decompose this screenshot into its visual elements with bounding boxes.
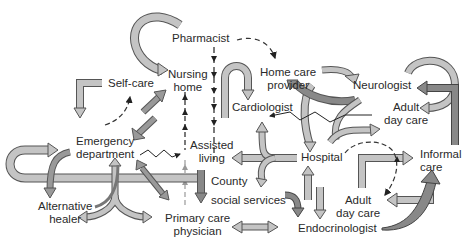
- self-care-arrow: [74, 83, 102, 118]
- care-network-diagram: Pharmacist Nursing home Self-care Home c…: [0, 0, 472, 246]
- adult-day-care-top-label-line2: day care: [384, 114, 428, 127]
- node-alternative-healer: Alternative healer: [38, 200, 92, 226]
- node-endocrinologist: Endocrinologist: [298, 222, 377, 235]
- alternative-healer-label-line1: Alternative: [38, 200, 92, 213]
- adult-day-care-bottom-label-line1: Adult: [336, 194, 380, 207]
- adult-day-care-dashed-cycle: [345, 142, 400, 195]
- node-emergency-department: Emergency department: [76, 135, 134, 161]
- cardiologist-label: Cardiologist: [232, 101, 293, 114]
- node-county-social-services: County social services: [211, 172, 286, 210]
- node-adult-day-care-bottom: Adult day care: [336, 194, 380, 220]
- node-cardiologist: Cardiologist: [232, 101, 293, 114]
- node-nursing-home: Nursing home: [168, 68, 208, 94]
- node-self-care: Self-care: [108, 77, 154, 90]
- neurologist-label: Neurologist: [353, 79, 411, 92]
- informal-care-label-line1: Informal: [420, 148, 462, 161]
- self-care-label: Self-care: [108, 77, 154, 90]
- node-pharmacist: Pharmacist: [172, 32, 230, 45]
- county-social-services-label-line1: County: [211, 172, 286, 191]
- emergency-department-label-line2: department: [76, 148, 134, 161]
- pcp-endocrinologist-double-arrow: [232, 221, 278, 233]
- adult-day-care-to-informal-arrow: [362, 151, 413, 188]
- informal-care-label-line2: care: [420, 161, 462, 174]
- node-hospital: Hospital: [301, 151, 343, 164]
- node-primary-care-physician: Primary care physician: [165, 212, 230, 238]
- node-adult-day-care-top: Adult day care: [384, 101, 428, 127]
- alternative-healer-label-line2: healer: [38, 213, 92, 226]
- emergency-department-label-line1: Emergency: [76, 135, 134, 148]
- node-assisted-living: Assisted living: [190, 139, 233, 165]
- ed-to-assisted-living-zigzag: [140, 150, 180, 157]
- ed-nursing-home-arrows: [132, 90, 166, 140]
- primary-care-physician-label-line2: physician: [165, 225, 230, 238]
- home-care-provider-label-line2: provider: [260, 79, 316, 92]
- node-informal-care: Informal care: [420, 148, 462, 174]
- county-social-services-label-line2: social services: [211, 191, 286, 210]
- hospital-endocrinologist-arrows: [302, 166, 326, 219]
- assisted-living-label-line1: Assisted: [190, 139, 233, 152]
- county-to-endocrinologist-arrow: [285, 195, 304, 217]
- node-home-care-provider: Home care provider: [260, 66, 316, 92]
- assisted-living-label-line2: living: [190, 152, 233, 165]
- node-neurologist: Neurologist: [353, 79, 411, 92]
- adult-day-care-bottom-label-line2: day care: [336, 207, 380, 220]
- nursing-home-label-line1: Nursing: [168, 68, 208, 81]
- pharmacist-to-home-care-dashed-arrow: [237, 38, 275, 58]
- pharmacist-label: Pharmacist: [172, 32, 230, 45]
- primary-care-physician-label-line1: Primary care: [165, 212, 230, 225]
- ed-to-self-care-dashed-arrow: [105, 97, 130, 125]
- nursing-home-label-line2: home: [168, 81, 208, 94]
- home-care-provider-label-line1: Home care: [260, 66, 316, 79]
- adult-day-care-top-label-line1: Adult: [384, 101, 428, 114]
- hospital-label: Hospital: [301, 151, 343, 164]
- assisted-living-up-dashed-arrow: [182, 92, 188, 205]
- endocrinologist-label: Endocrinologist: [298, 222, 377, 235]
